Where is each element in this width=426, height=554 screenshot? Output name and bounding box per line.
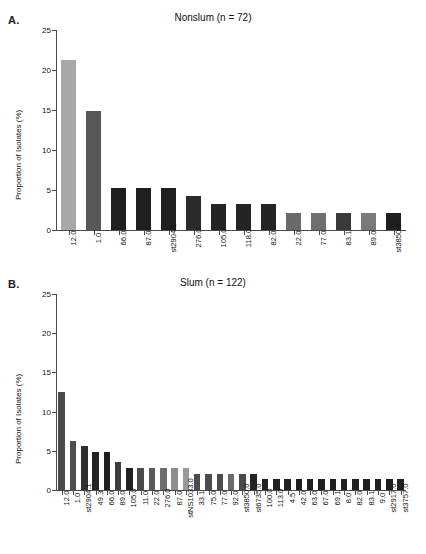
x-tick-label-slot: 75.0 [203,496,214,554]
y-tick [52,110,56,111]
bar-slot [124,294,135,490]
panel-b-bars [56,294,406,490]
bar-slot [293,294,304,490]
bar-a-83.1 [336,213,351,230]
bar-slot [381,30,406,230]
bar-a-118.0 [236,204,251,230]
x-tick-label: 118.0 [244,229,253,247]
x-tick-label-slot: 22.0 [146,496,157,554]
bar-b-63.0 [307,479,314,490]
bar-slot [331,30,356,230]
y-tick [52,333,56,334]
x-tick-label-slot: 1.0 [67,496,78,554]
figure-container: A. Nonslum (n = 72) Proportion of Isolat… [0,0,426,554]
bar-slot [361,294,372,490]
y-tick [52,294,56,295]
bar-slot [90,294,101,490]
bar-slot [192,294,203,490]
bar-slot [282,294,293,490]
bar-b-89.0 [115,462,122,490]
bar-slot [384,294,395,490]
bar-slot [372,294,383,490]
bar-slot [306,30,331,230]
x-tick-label-slot: 82.0 [350,496,361,554]
x-tick-label-slot: 63.0 [305,496,316,554]
bar-a-12.0 [61,60,76,230]
bar-b-42.0 [296,479,303,490]
bar-a-77.0 [311,213,326,230]
bar-slot [231,30,256,230]
bar-b-75.0 [205,474,212,490]
y-tick-label: 0 [47,486,51,495]
y-tick [52,490,56,491]
x-tick-label: 1.0 [94,233,103,244]
x-tick-label: 105.0 [219,228,228,247]
bar-slot [259,294,270,490]
bar-b-69.1 [330,479,337,490]
bar-b-49.3 [92,452,99,490]
bar-slot [248,294,259,490]
panel-a-title: Nonslum (n = 72) [0,12,426,23]
y-tick-label: 20 [42,329,51,338]
x-tick-label-slot: 4.5 [282,496,293,554]
bar-slot [112,294,123,490]
x-tick-label: 82.0 [269,231,278,246]
y-tick-label: 10 [42,146,51,155]
y-tick [52,230,56,231]
y-tick-label: 5 [47,446,51,455]
x-tick-label-slot: 12.0 [56,496,67,554]
bar-a-1.0 [86,111,101,230]
panel-b: B. Slum (n = 122) Proportion of Isolates… [0,272,426,554]
panel-a-plot-area: 12.01.066.087.0st2904.1276.0105.0118.082… [56,30,406,230]
bar-slot [56,30,81,230]
x-tick-label-slot: 42.0 [293,496,304,554]
bar-b-1.0 [70,441,77,490]
x-tick-label-slot: 100.0 [259,496,270,554]
x-tick-label-slot: 66.0 [101,496,112,554]
bar-b-87.0 [171,468,178,490]
bar-slot [327,294,338,490]
x-tick-label: 22.0 [294,231,303,246]
bar-a-22.0 [286,213,301,230]
y-tick-label: 5 [47,186,51,195]
x-tick-label-slot: 92.0 [225,496,236,554]
bar-b-105.0 [126,468,133,490]
y-tick [52,190,56,191]
bar-b-82.0 [352,479,359,490]
x-tick-label-slot: st3757.0 [395,496,406,554]
bar-slot [356,30,381,230]
bar-b-67.0 [318,479,325,490]
bar-slot [256,30,281,230]
bar-b-276.0 [160,468,167,490]
bar-b-22.0 [149,468,156,490]
bar-b-66.0 [104,452,111,490]
x-tick-label-slot: st2917.0 [384,496,395,554]
bar-a-105.0 [211,204,226,230]
bar-slot [305,294,316,490]
x-tick-label-slot: 49.3 [90,496,101,554]
bar-slot [101,294,112,490]
bar-a-87.0 [136,188,151,230]
x-tick-label-slot: 8.0 [338,496,349,554]
panel-a: A. Nonslum (n = 72) Proportion of Isolat… [0,0,426,272]
panel-b-x-tick-labels: 12.01.0st2904.149.366.089.0105.011.022.0… [56,496,406,554]
panel-a-x-ticks [56,231,406,235]
bar-b-12.0 [58,392,65,490]
x-tick-label-slot: 83.1 [361,496,372,554]
y-tick-label: 20 [42,66,51,75]
bar-slot [281,30,306,230]
bar-a-66.0 [111,188,126,230]
x-tick-label-slot: 33.1 [192,496,203,554]
x-tick-label-slot: stNS1033.0 [180,496,191,554]
bar-a-89.0 [361,213,376,230]
x-tick-label: st3850.0 [394,223,403,252]
x-tick-label-slot: st2904.1 [79,496,90,554]
bar-slot [156,30,181,230]
bar-b-11.0 [137,468,144,490]
bar-a-82.0 [261,204,276,230]
bar-slot [81,30,106,230]
bar-slot [206,30,231,230]
x-tick-label-slot: 77.0 [214,496,225,554]
bar-slot [316,294,327,490]
x-tick-label-slot: 67.0 [316,496,327,554]
